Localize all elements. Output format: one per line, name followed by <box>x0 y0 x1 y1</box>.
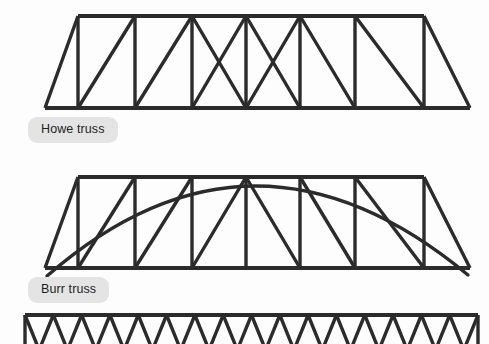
zigzag-down-14 <box>421 315 435 344</box>
zigzag-up-9 <box>294 315 308 344</box>
diagonal-4 <box>300 16 355 108</box>
zigzag-down-9 <box>280 315 294 344</box>
zigzag-up-12 <box>379 315 393 344</box>
zigzag-down-8 <box>252 315 266 344</box>
zigzag-down-0 <box>25 315 39 344</box>
zigzag-up-0 <box>39 315 53 344</box>
zigzag-up-13 <box>407 315 421 344</box>
zigzag-up-4 <box>152 315 166 344</box>
zigzag-up-3 <box>124 315 138 344</box>
diagonal-3 <box>246 177 300 268</box>
zigzag-down-7 <box>223 315 237 344</box>
left-end-post <box>45 16 78 108</box>
burr-truss-label: Burr truss <box>28 277 109 303</box>
zigzag-up-6 <box>209 315 223 344</box>
zigzag-up-14 <box>436 315 450 344</box>
zigzag-down-3 <box>110 315 124 344</box>
diagram-canvas: Howe truss Burr truss <box>0 0 489 344</box>
zigzag-down-13 <box>393 315 407 344</box>
zigzag-down-6 <box>195 315 209 344</box>
diagonal-1 <box>135 177 192 268</box>
right-end-post <box>424 16 470 108</box>
zigzag-up-10 <box>322 315 336 344</box>
zigzag-up-7 <box>237 315 251 344</box>
diagonal-1 <box>135 16 192 108</box>
zigzag-down-12 <box>365 315 379 344</box>
zigzag-up-5 <box>181 315 195 344</box>
zigzag-up-1 <box>67 315 81 344</box>
zigzag-up-8 <box>266 315 280 344</box>
right-end-post <box>424 177 470 268</box>
zigzag-down-2 <box>82 315 96 344</box>
zigzag-down-15 <box>450 315 464 344</box>
zigzag-up-11 <box>351 315 365 344</box>
zigzag-up-15 <box>464 315 478 344</box>
diagonal-0 <box>78 177 135 268</box>
howe-truss-label: Howe truss <box>28 117 118 143</box>
zigzag-down-4 <box>138 315 152 344</box>
zigzag-down-1 <box>53 315 67 344</box>
zigzag-down-10 <box>308 315 322 344</box>
zigzag-down-5 <box>167 315 181 344</box>
zigzag-down-11 <box>336 315 350 344</box>
diagonal-0 <box>78 16 135 108</box>
warren-truss-diagram <box>0 300 489 344</box>
zigzag-up-2 <box>96 315 110 344</box>
diagonal-5 <box>355 16 424 108</box>
